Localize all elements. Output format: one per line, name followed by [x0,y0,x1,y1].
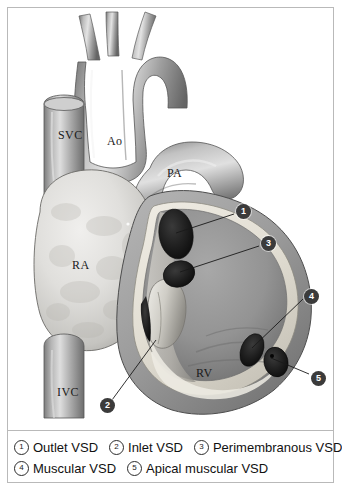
legend-number-4: 4 [14,461,29,476]
legend-label-3: Perimembranous VSD [213,440,342,455]
legend-label-2: Inlet VSD [128,440,183,455]
legend-entry-5: 5Apical muscular VSD [127,461,268,476]
legend-row-1: 1Outlet VSD2Inlet VSD3Perimembranous VSD [14,437,333,458]
legend-divider [8,430,334,431]
anatomy-label-ao: Ao [107,134,122,149]
legend-label-5: Apical muscular VSD [146,461,268,476]
legend-number-5: 5 [127,461,142,476]
anatomy-label-pa: PA [167,166,182,181]
legend-number-2: 2 [109,440,124,455]
legend-row-2: 4Muscular VSD5Apical muscular VSD [14,458,333,479]
legend-entry-3: 3Perimembranous VSD [194,440,342,455]
anatomy-label-ra: RA [72,258,89,273]
legend-entry-1: 1Outlet VSD [14,440,98,455]
callout-marker-4: 4 [304,289,319,304]
legend-label-1: Outlet VSD [33,440,98,455]
callout-marker-2: 2 [100,398,115,413]
heart-illustration [0,0,342,430]
legend: 1Outlet VSD2Inlet VSD3Perimembranous VSD… [8,432,333,482]
aortic-arch-branches [79,12,156,60]
callout-marker-1: 1 [236,204,251,219]
anatomy-label-ivc: IVC [57,385,79,400]
legend-label-4: Muscular VSD [33,461,116,476]
legend-entry-4: 4Muscular VSD [14,461,116,476]
inferior-vena-cava [44,334,84,418]
callout-marker-3: 3 [261,236,276,251]
legend-entry-2: 2Inlet VSD [109,440,183,455]
anatomy-label-svc: SVC [58,128,83,143]
vsd-illustration-figure: SVCAoPARAIVCRV 12345 1Outlet VSD2Inlet V… [0,0,342,491]
legend-number-1: 1 [14,440,29,455]
callout-marker-5: 5 [311,371,326,386]
legend-number-3: 3 [194,440,209,455]
anatomy-label-rv: RV [196,366,213,381]
